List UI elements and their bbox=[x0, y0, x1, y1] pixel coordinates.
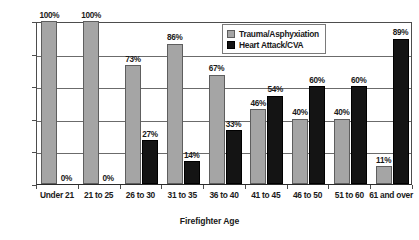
x-category-label: 61 and over bbox=[367, 190, 415, 201]
bar-value-label: 14% bbox=[175, 151, 209, 160]
legend-swatch-icon-heart-attack bbox=[227, 41, 235, 49]
x-tick-mark bbox=[203, 185, 204, 189]
bar-value-label: 60% bbox=[300, 76, 334, 85]
x-axis-title: Firefighter Age bbox=[0, 216, 419, 226]
bar-heart-attack bbox=[393, 39, 409, 184]
legend-label-trauma: Trauma/Asphyxiation bbox=[239, 29, 319, 39]
bar-heart-attack bbox=[351, 86, 367, 184]
legend-item-trauma-asphyxiation: Trauma/Asphyxiation bbox=[227, 28, 319, 39]
x-tick-mark bbox=[36, 185, 37, 189]
bar-trauma bbox=[292, 119, 308, 184]
bar-heart-attack bbox=[309, 86, 325, 184]
bar-value-label: 86% bbox=[158, 33, 192, 42]
bar-trauma bbox=[125, 65, 141, 184]
bar-trauma bbox=[41, 21, 57, 184]
bar-group: 11%89% bbox=[376, 23, 409, 184]
bar-heart-attack bbox=[267, 96, 283, 184]
bar-trauma bbox=[167, 44, 183, 184]
bar-heart-attack bbox=[184, 161, 200, 184]
legend-swatch-icon-trauma bbox=[227, 30, 235, 38]
bar-trauma bbox=[376, 166, 392, 184]
bar-trauma bbox=[209, 75, 225, 184]
bar-chart: 0%20%40%60%80%100% Under 2121 to 2526 to… bbox=[0, 0, 419, 240]
bar-trauma bbox=[250, 109, 266, 184]
bar-value-label: 27% bbox=[133, 130, 167, 139]
bar-trauma bbox=[83, 21, 99, 184]
bar-group: 100%0% bbox=[83, 23, 116, 184]
bar-heart-attack bbox=[142, 140, 158, 184]
bar-value-label: 33% bbox=[217, 120, 251, 129]
x-tick-mark bbox=[245, 185, 246, 189]
bar-value-label: 0% bbox=[49, 174, 83, 183]
x-tick-mark bbox=[328, 185, 329, 189]
x-tick-mark bbox=[287, 185, 288, 189]
x-tick-mark bbox=[161, 185, 162, 189]
x-tick-mark bbox=[78, 185, 79, 189]
bar-group: 73%27% bbox=[125, 23, 158, 184]
bar-value-label: 67% bbox=[200, 64, 234, 73]
x-tick-mark bbox=[120, 185, 121, 189]
bar-group: 86%14% bbox=[167, 23, 200, 184]
bar-value-label: 60% bbox=[342, 76, 376, 85]
bar-value-label: 89% bbox=[384, 28, 418, 37]
bar-group: 40%60% bbox=[334, 23, 367, 184]
bar-trauma bbox=[334, 119, 350, 184]
x-tick-mark bbox=[370, 185, 371, 189]
bar-heart-attack bbox=[226, 130, 242, 184]
bar-value-label: 73% bbox=[116, 55, 150, 64]
legend-item-heart-attack-cva: Heart Attack/CVA bbox=[227, 39, 319, 50]
bar-value-label: 100% bbox=[74, 11, 108, 20]
legend-label-heart-attack: Heart Attack/CVA bbox=[239, 40, 303, 50]
bar-value-label: 100% bbox=[32, 11, 66, 20]
x-tick-mark bbox=[412, 185, 413, 189]
bar-value-label: 0% bbox=[91, 174, 125, 183]
bar-value-label: 54% bbox=[258, 85, 292, 94]
bar-group: 100%0% bbox=[41, 23, 74, 184]
chart-legend: Trauma/Asphyxiation Heart Attack/CVA bbox=[222, 24, 326, 54]
